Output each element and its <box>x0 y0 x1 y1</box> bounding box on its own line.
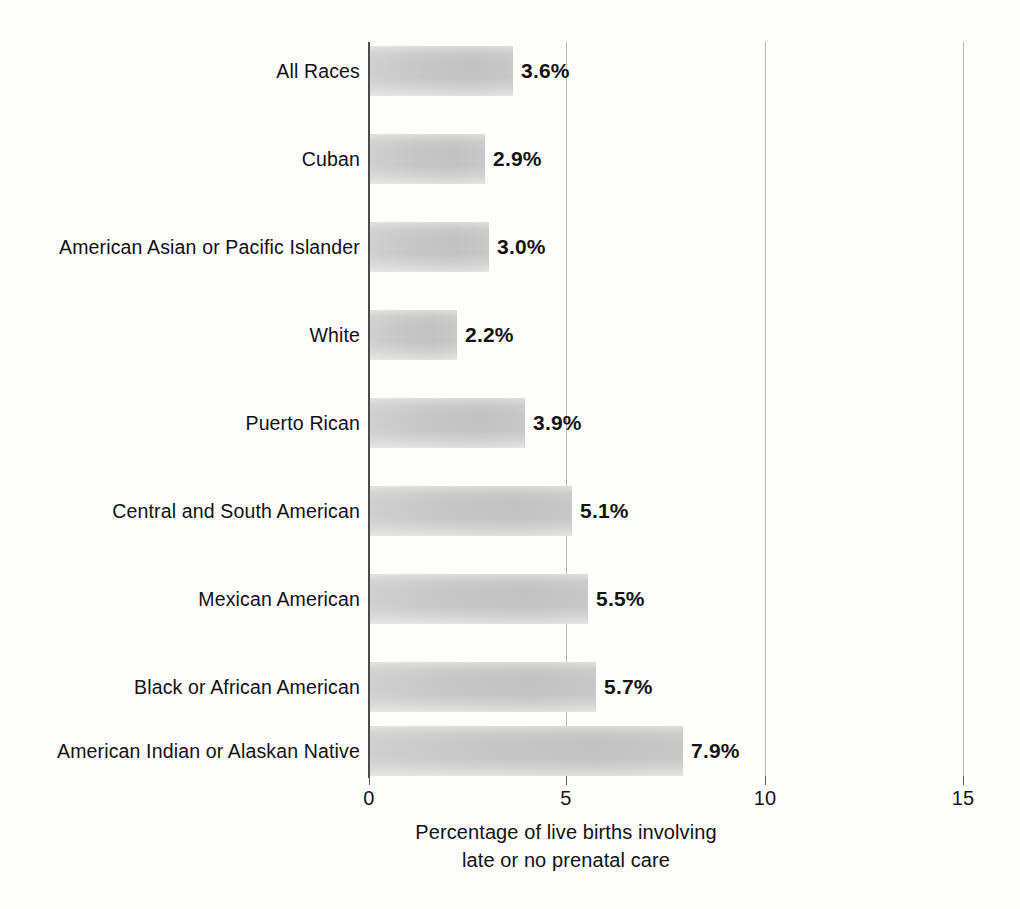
bar-row: American Indian or Alaskan Native 7.9% <box>0 726 1020 776</box>
bar-row: Puerto Rican 3.9% <box>0 398 1020 448</box>
bar <box>370 134 485 184</box>
category-label: Puerto Rican <box>245 411 360 435</box>
x-tick-label-10: 10 <box>735 786 795 810</box>
x-axis-title-line-2: late or no prenatal care <box>368 846 764 874</box>
category-label: White <box>309 323 360 347</box>
tick-mark-0 <box>369 776 370 785</box>
category-label: Black or African American <box>134 675 360 699</box>
value-label: 3.6% <box>521 59 570 83</box>
value-label: 5.7% <box>604 675 653 699</box>
category-label: All Races <box>276 59 360 83</box>
tick-mark-10 <box>765 776 766 785</box>
category-label: Cuban <box>302 147 360 171</box>
plot-area: All Races 3.6% Cuban 2.9% American Asian… <box>0 0 1020 909</box>
bar <box>370 46 513 96</box>
bar-row: All Races 3.6% <box>0 46 1020 96</box>
bar-row: American Asian or Pacific Islander 3.0% <box>0 222 1020 272</box>
tick-mark-15 <box>963 776 964 785</box>
bar <box>370 398 525 448</box>
value-label: 2.9% <box>493 147 542 171</box>
bar-row: Central and South American 5.1% <box>0 486 1020 536</box>
value-label: 7.9% <box>691 739 740 763</box>
bar <box>370 310 457 360</box>
category-label: American Indian or Alaskan Native <box>57 739 360 763</box>
category-label: Mexican American <box>198 587 360 611</box>
x-tick-label-0: 0 <box>339 786 399 810</box>
x-tick-label-5: 5 <box>536 786 596 810</box>
bar <box>370 222 489 272</box>
chart-figure: All Races 3.6% Cuban 2.9% American Asian… <box>0 0 1020 909</box>
bar-row: Cuban 2.9% <box>0 134 1020 184</box>
value-label: 2.2% <box>465 323 514 347</box>
bar <box>370 574 588 624</box>
x-axis-title-line-1: Percentage of live births involving <box>368 818 764 846</box>
x-tick-label-15: 15 <box>933 786 993 810</box>
bar-row: Mexican American 5.5% <box>0 574 1020 624</box>
bar <box>370 662 596 712</box>
tick-mark-5 <box>566 776 567 785</box>
x-axis-title: Percentage of live births involving late… <box>368 818 764 874</box>
category-label: American Asian or Pacific Islander <box>59 235 360 259</box>
value-label: 5.1% <box>580 499 629 523</box>
bar-row: White 2.2% <box>0 310 1020 360</box>
bar <box>370 726 683 776</box>
bar <box>370 486 572 536</box>
value-label: 5.5% <box>596 587 645 611</box>
value-label: 3.0% <box>497 235 546 259</box>
bar-row: Black or African American 5.7% <box>0 662 1020 712</box>
category-label: Central and South American <box>112 499 360 523</box>
value-label: 3.9% <box>533 411 582 435</box>
